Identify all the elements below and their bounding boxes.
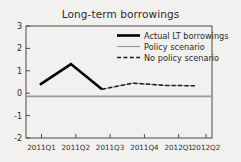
y-tick-label: -1 [14, 112, 22, 121]
legend-label-no-policy: No policy scenario [144, 53, 219, 63]
x-tick-label: 2011Q4 [130, 143, 159, 152]
series-actual-lt-borrowings [40, 64, 102, 89]
y-tick-label: 2 [17, 44, 22, 53]
legend-label-policy: Policy scenario [144, 42, 205, 52]
x-tick-label: 2012Q1 [164, 143, 193, 152]
y-tick-label: -2 [14, 134, 22, 143]
x-tick-label: 2012Q2 [192, 143, 221, 152]
x-axis-ticks [42, 134, 207, 138]
plot-area: 3 2 1 0 -1 -2 2011Q1 2011Q2 2011Q3 2011Q… [0, 0, 241, 162]
y-axis-labels: 3 2 1 0 -1 -2 [14, 22, 22, 143]
x-tick-label: 2011Q1 [27, 143, 56, 152]
y-tick-label: 0 [17, 89, 22, 98]
x-axis-labels: 2011Q1 2011Q2 2011Q3 2011Q4 2012Q1 2012Q… [27, 143, 220, 152]
x-tick-label: 2011Q2 [62, 143, 91, 152]
y-axis-ticks [26, 26, 30, 138]
y-tick-label: 3 [17, 22, 22, 31]
series-no-policy-scenario [102, 83, 195, 89]
y-tick-label: 1 [17, 67, 22, 76]
x-tick-label: 2011Q3 [96, 143, 125, 152]
legend-label-actual: Actual LT borrowings [144, 31, 229, 41]
chart-figure: Long-term borrowings 3 2 1 0 -1 -2 [0, 0, 241, 162]
